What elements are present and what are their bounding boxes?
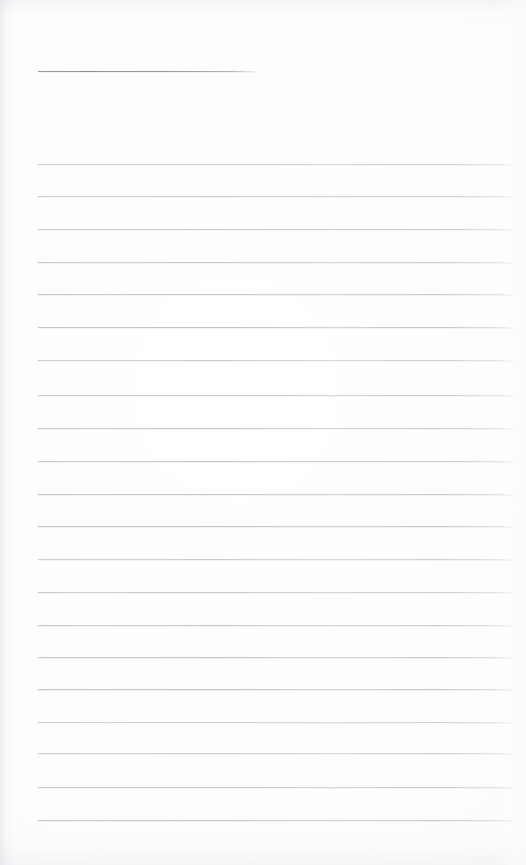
ruled-line xyxy=(38,494,513,495)
paper-surface xyxy=(0,0,526,865)
ruled-line xyxy=(38,360,513,361)
ruled-line xyxy=(38,625,513,626)
ruled-line xyxy=(38,787,513,788)
ruled-line xyxy=(38,657,513,658)
ruled-line xyxy=(38,395,513,396)
ruled-line xyxy=(38,689,513,690)
ruled-line xyxy=(38,753,513,754)
ruled-line xyxy=(38,526,513,527)
ruled-line xyxy=(38,164,513,165)
ruled-line xyxy=(38,294,513,295)
ruled-line xyxy=(38,559,513,560)
ruled-line xyxy=(38,196,513,197)
ruled-line xyxy=(38,229,513,230)
ruled-line xyxy=(38,820,513,821)
ruled-line xyxy=(38,428,513,429)
ruled-line xyxy=(38,461,513,462)
ruled-line xyxy=(38,592,513,593)
ruled-line xyxy=(38,262,513,263)
scanned-page xyxy=(0,0,526,865)
ruled-line xyxy=(38,722,513,723)
ruled-line xyxy=(38,327,513,328)
title-rule xyxy=(38,71,257,72)
